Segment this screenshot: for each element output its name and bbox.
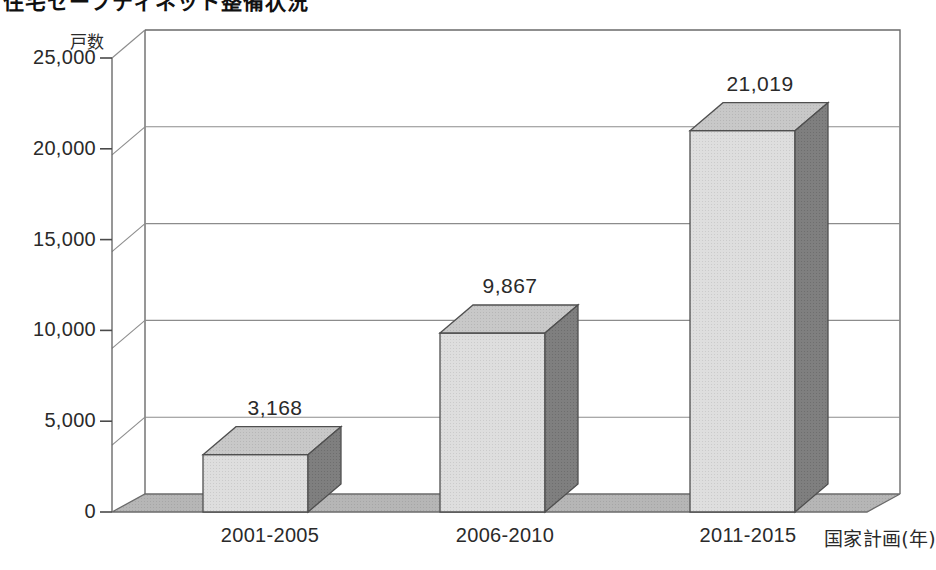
bar-3d-2011-2015[interactable] [690, 103, 828, 512]
y-tick-label-10000: 10,000 [0, 318, 96, 341]
y-tick-label-15000: 15,000 [0, 228, 96, 251]
y-tick-label-25000: 25,000 [0, 46, 96, 69]
y-tick-label-0: 0 [0, 500, 96, 523]
bar-3d-2001-2005[interactable] [203, 427, 341, 512]
x-axis-suffix-label: 国家計画(年) [824, 524, 924, 551]
bar-value-label-2006-2010: 9,867 [430, 274, 590, 298]
bar-3d-2006-2010[interactable] [440, 305, 578, 512]
y-tick-label-20000: 20,000 [0, 137, 96, 160]
x-tick-label-2006-2010: 2006-2010 [420, 524, 590, 547]
y-tick-label-5000: 5,000 [0, 409, 96, 432]
x-axis-suffix-text: 国家計画(年) [824, 528, 936, 550]
bar-value-label-2011-2015: 21,019 [680, 72, 840, 96]
bar-value-label-2001-2005: 3,168 [195, 396, 355, 420]
x-tick-label-2001-2005: 2001-2005 [185, 524, 355, 547]
x-tick-label-2011-2015: 2011-2015 [663, 524, 833, 547]
y-axis-ticks [100, 58, 112, 512]
gridline-depth-connectors [112, 30, 145, 445]
